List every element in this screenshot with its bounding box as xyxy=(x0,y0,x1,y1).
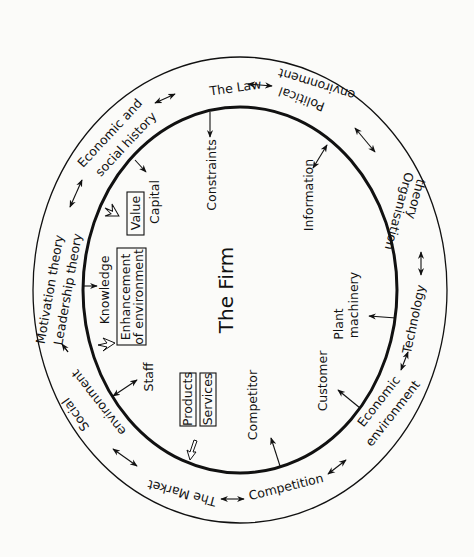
outer-ellipse xyxy=(33,57,447,523)
information-arrow-icon xyxy=(313,145,327,168)
products-box: Products xyxy=(180,372,196,426)
label-the-market: The Market xyxy=(146,477,219,510)
enhancement-box: Enhancement of environment xyxy=(117,248,146,345)
firm-title: The Firm xyxy=(214,247,238,335)
market-social-arrow-icon xyxy=(113,449,137,466)
label-customer: Customer xyxy=(315,350,330,412)
label-plant: Plant xyxy=(331,308,346,340)
plant-arrow-icon xyxy=(369,316,396,318)
services-box: Services xyxy=(200,373,216,426)
label-machinery: machinery xyxy=(346,271,361,338)
law-econ-arrow-icon xyxy=(155,94,175,103)
label-of-environment: of environment xyxy=(131,249,146,345)
label-constraints: Constraints xyxy=(204,139,219,210)
label-technology: Technology xyxy=(399,283,429,356)
leadership-econ-history-arrow-icon xyxy=(70,180,82,207)
label-capital: Capital xyxy=(147,180,162,224)
firm-environment-diagram: The Firm The Law environment Political O… xyxy=(0,0,474,557)
capital-arrow-icon xyxy=(135,160,146,172)
label-knowledge: Knowledge xyxy=(97,255,112,324)
technology-economic-arrow-icon xyxy=(401,352,408,370)
label-information: Information xyxy=(301,159,316,231)
economic-competition-arrow-icon xyxy=(328,460,346,474)
customer-arrow-icon xyxy=(338,390,360,408)
value-hollow-arrow-icon xyxy=(102,202,123,222)
label-the-law: The Law xyxy=(208,76,263,98)
label-staff: Staff xyxy=(141,362,156,391)
staff-arrow-icon xyxy=(113,380,137,396)
political-organisation-arrow-icon xyxy=(355,128,375,152)
label-competition: Competition xyxy=(247,470,325,503)
competitor-arrow-icon xyxy=(271,438,280,466)
label-value: Value xyxy=(128,196,143,231)
label-competitor: Competitor xyxy=(245,369,260,440)
label-services: Services xyxy=(200,373,215,426)
enhancement-hollow-arrow-icon xyxy=(98,338,115,351)
value-box: Value xyxy=(127,192,144,235)
label-products: Products xyxy=(180,372,195,426)
products-hollow-arrow-icon xyxy=(187,440,197,460)
